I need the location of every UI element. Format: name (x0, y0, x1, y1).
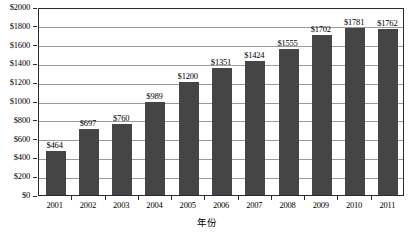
bar-value-label: $1555 (263, 39, 313, 48)
y-axis-tick-mark (33, 120, 37, 121)
y-axis-tick-mark (33, 26, 37, 27)
y-axis-tick-mark (33, 177, 37, 178)
bar[interactable] (378, 29, 398, 195)
y-axis-tick-mark (33, 64, 37, 65)
bar-value-label: $1762 (362, 19, 412, 28)
y-axis-tick-label: $1200 (0, 78, 35, 87)
y-axis-tick-mark (33, 139, 37, 140)
y-axis-tick-mark (33, 102, 37, 103)
y-axis-tick-mark (33, 158, 37, 159)
y-axis-tick-mark (33, 8, 37, 9)
bar[interactable] (245, 61, 265, 195)
y-axis-tick-mark (33, 45, 37, 46)
y-axis-tick-label: $1000 (0, 97, 35, 106)
bar-value-label: $760 (96, 114, 146, 123)
bar-value-label: $464 (30, 141, 80, 150)
bar-chart: $0$200$400$600$800$1000$1200$1400$1600$1… (0, 0, 413, 238)
bar[interactable] (179, 82, 199, 195)
y-axis-tick-label: $0 (0, 191, 35, 200)
bar-value-label: $1424 (229, 51, 279, 60)
y-axis-tick-label: $800 (0, 116, 35, 125)
y-axis-tick-mark (33, 196, 37, 197)
bar[interactable] (279, 49, 299, 195)
bar[interactable] (145, 102, 165, 195)
bar[interactable] (46, 151, 66, 195)
bar[interactable] (312, 35, 332, 195)
bar-value-label: $989 (129, 92, 179, 101)
y-axis-tick-label: $400 (0, 153, 35, 162)
y-axis-tick-label: $2000 (0, 3, 35, 12)
y-axis-tick-label: $1800 (0, 22, 35, 31)
x-axis-tick-label: 2011 (362, 200, 412, 210)
x-axis-title: 年份 (0, 217, 413, 228)
y-axis-tick-mark (33, 83, 37, 84)
y-axis-tick-label: $1400 (0, 59, 35, 68)
y-axis-tick-label: $200 (0, 172, 35, 181)
bar[interactable] (212, 68, 232, 195)
bar-value-label: $1200 (163, 72, 213, 81)
plot-area (38, 8, 404, 196)
bar[interactable] (79, 129, 99, 195)
bar[interactable] (112, 124, 132, 195)
bar[interactable] (345, 28, 365, 195)
y-axis-tick-label: $1600 (0, 41, 35, 50)
